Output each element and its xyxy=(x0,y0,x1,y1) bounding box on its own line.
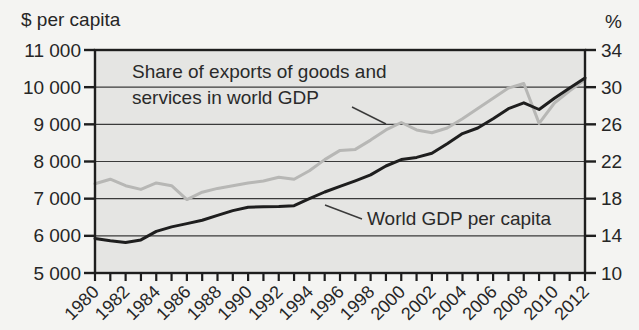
year-tick-label: 1996 xyxy=(305,282,347,324)
year-tick-label: 1986 xyxy=(152,282,194,324)
year-tick-label: 2012 xyxy=(550,282,592,324)
left-tick-label: 5 000 xyxy=(33,263,81,284)
year-tick-label: 2004 xyxy=(428,282,470,324)
right-tick-label: 34 xyxy=(601,40,623,61)
year-tick-label: 1988 xyxy=(183,282,225,324)
year-tick-label: 1998 xyxy=(336,282,378,324)
exports-share-annotation: Share of exports of goods and services i… xyxy=(132,59,387,111)
left-tick-label: 6 000 xyxy=(33,225,81,246)
exports-share-annotation-line2: services in world GDP xyxy=(132,85,387,111)
gdp-per-capita-annotation: World GDP per capita xyxy=(367,206,551,232)
left-tick-label: 11 000 xyxy=(24,40,81,61)
year-tick-label: 1982 xyxy=(91,282,133,324)
right-tick-label: 14 xyxy=(601,225,623,246)
right-tick-label: 30 xyxy=(601,77,622,98)
year-tick-label: 1992 xyxy=(244,282,286,324)
right-tick-label: 22 xyxy=(601,151,622,172)
year-tick-label: 2000 xyxy=(367,282,409,324)
year-tick-label: 1984 xyxy=(122,282,164,324)
exports-gdp-chart: 11 00010 0009 0008 0007 0006 0005 000343… xyxy=(0,0,639,330)
left-tick-label: 8 000 xyxy=(33,151,81,172)
year-tick-label: 2008 xyxy=(489,282,531,324)
right-axis-title: % xyxy=(605,11,622,33)
left-tick-label: 7 000 xyxy=(33,188,81,209)
year-tick-label: 2002 xyxy=(397,282,439,324)
year-tick-label: 1990 xyxy=(213,282,255,324)
year-tick-label: 2006 xyxy=(458,282,500,324)
left-tick-label: 9 000 xyxy=(33,114,81,135)
year-tick-label: 2010 xyxy=(520,282,562,324)
right-tick-label: 26 xyxy=(601,114,622,135)
year-tick-label: 1994 xyxy=(275,282,317,324)
chart-canvas: 11 00010 0009 0008 0007 0006 0005 000343… xyxy=(0,0,639,330)
left-tick-label: 10 000 xyxy=(23,77,81,98)
year-tick-label: 1980 xyxy=(60,282,102,324)
left-axis-title: $ per capita xyxy=(21,9,120,31)
exports-share-annotation-line1: Share of exports of goods and xyxy=(132,59,387,85)
right-tick-label: 10 xyxy=(601,263,622,284)
right-tick-label: 18 xyxy=(601,188,622,209)
